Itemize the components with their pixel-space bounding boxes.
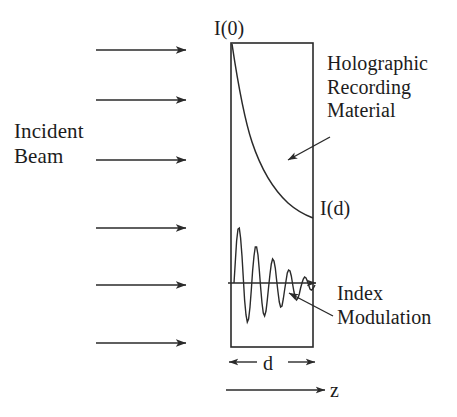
- intensity-input-label: I(0): [214, 17, 244, 41]
- recording-material-label: Holographic Recording Material: [327, 52, 428, 123]
- index-modulation-leader-arrow: [289, 293, 333, 316]
- thickness-label: d: [263, 352, 273, 376]
- material-leader-arrow: [288, 137, 330, 160]
- incident-beam-label: Incident Beam: [14, 119, 84, 169]
- index-modulation-label: Index Modulation: [337, 282, 431, 329]
- recording-material-slab: [231, 43, 313, 347]
- intensity-output-label: I(d): [320, 197, 350, 221]
- incident-beam-arrows: [96, 50, 186, 343]
- index-modulation-wave: [234, 228, 315, 322]
- z-axis-label: z: [330, 379, 339, 403]
- holography-figure: Incident Beam I(0) I(d) Holographic Reco…: [0, 0, 457, 417]
- intensity-decay-curve: [232, 44, 313, 218]
